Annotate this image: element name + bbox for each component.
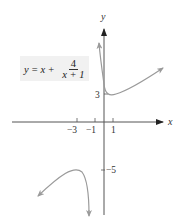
eq-lhs: y	[24, 64, 29, 75]
curve-right-branch	[99, 43, 104, 84]
curve-left-branch	[38, 170, 89, 215]
eq-plus: +	[48, 64, 54, 75]
eq-fraction: 4 x + 1	[60, 59, 86, 80]
x-tick-label-neg1: −1	[86, 125, 96, 135]
curve-right-branch-lower	[104, 68, 163, 95]
y-axis-label: y	[100, 11, 106, 22]
eq-sign: =	[32, 64, 38, 75]
x-axis-label: x	[167, 116, 173, 127]
y-tick-label-3: 3	[95, 90, 100, 100]
eq-term: x	[41, 64, 46, 75]
y-tick-label-neg5: −5	[106, 165, 116, 175]
x-tick-label-neg3: −3	[67, 125, 77, 135]
x-tick-label-1: 1	[111, 125, 116, 135]
equation-label: y = x + 4 x + 1	[24, 59, 86, 80]
eq-denominator: x + 1	[60, 70, 86, 80]
x-ticks: −3 −1 1	[67, 118, 116, 135]
graph-canvas: x y −3 −1 1 3 −5	[0, 0, 184, 223]
